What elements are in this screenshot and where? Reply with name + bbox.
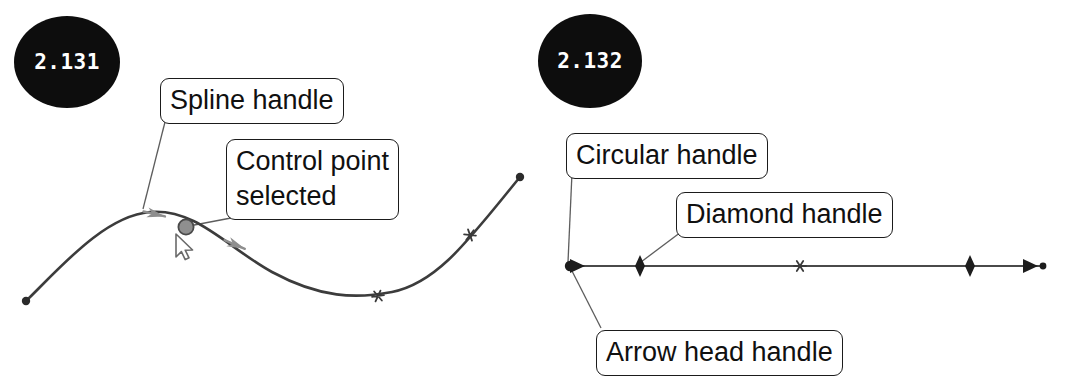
leader-line-diamond-handle: [641, 232, 681, 262]
callout-control-point-selected: Control point selected: [226, 139, 399, 220]
leader-line-spline-handle: [143, 118, 166, 209]
callout-spline-handle: Spline handle: [160, 78, 344, 124]
diamond-handle-right[interactable]: [965, 255, 975, 277]
line-midpoint-marker[interactable]: [794, 261, 806, 271]
selected-control-point[interactable]: [178, 219, 193, 234]
mouse-cursor-icon: [176, 234, 193, 260]
callout-arrow-head-handle: Arrow head handle: [596, 330, 843, 376]
diamond-handle-left[interactable]: [635, 255, 645, 277]
callout-circular-handle: Circular handle: [566, 133, 768, 179]
figure-page: 2.131 2.132 Spline handle Control point …: [0, 0, 1065, 388]
arrow-head-handle-left[interactable]: [570, 259, 585, 273]
arrow-head-handle-right[interactable]: [1023, 259, 1038, 273]
spline-endpoint-end[interactable]: [516, 173, 524, 181]
spline-knot-marker[interactable]: [371, 290, 384, 302]
line-endpoint-right[interactable]: [1040, 263, 1047, 270]
callout-diamond-handle: Diamond handle: [676, 192, 893, 238]
spline-handle-lower[interactable]: [223, 236, 247, 254]
leader-line-arrow-head-handle: [572, 271, 601, 328]
spline-handle-upper[interactable]: [142, 207, 166, 222]
spline-endpoint-start[interactable]: [22, 297, 30, 305]
diagram-artwork: [0, 0, 1065, 388]
leader-line-circular-handle: [568, 173, 572, 262]
